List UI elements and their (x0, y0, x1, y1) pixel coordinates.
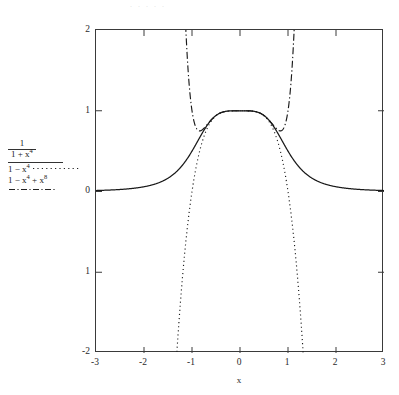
x-tick-label-3: 3 (368, 358, 398, 368)
legend-item-1-minus-x4: 1 − x4 (8, 164, 88, 174)
plot-frame (95, 29, 383, 352)
series-1 - x^4 + x^8 (184, 30, 296, 131)
x-tick-label-2: 2 (320, 358, 350, 368)
legend-line-sample-dashdot (9, 186, 55, 193)
y-tick-label-2: 2 (60, 25, 90, 35)
exponent-8: 8 (44, 173, 47, 180)
y-tick-label-1: 1 (60, 106, 90, 116)
x-tick-label-neg2: -2 (128, 358, 158, 368)
y-tick-label-0: 0 (60, 186, 90, 196)
denominator-exponent: 4 (30, 147, 33, 154)
legend-line-sample-solid (8, 162, 63, 163)
x-tick-label-1: 1 (272, 358, 302, 368)
x-tick-label-neg3: -3 (80, 358, 110, 368)
y-tick-label-neg2: -2 (60, 347, 90, 357)
series-1 - x^4 (177, 111, 304, 353)
plot-canvas (96, 30, 384, 353)
x-tick-label-neg1: -1 (176, 358, 206, 368)
exponent-4: 4 (27, 162, 30, 169)
fraction-denominator: 1 + x4 (8, 150, 36, 159)
x-axis-label: x (224, 375, 254, 385)
series-1/(1+x^4) (96, 111, 384, 191)
x-tick-label-0: 0 (224, 358, 254, 368)
legend-line-sample-dotted (33, 165, 79, 172)
expression-1-minus-x4-plus-x8: 1 − x4 + x8 (8, 175, 47, 185)
y-tick-label-neg1: 1 (60, 267, 90, 277)
legend-item-reciprocal: 1 1 + x4 (8, 139, 88, 163)
clipped-title-artifact: . . . . . (130, 0, 260, 9)
fraction-1-over-1-plus-x4: 1 1 + x4 (8, 139, 36, 160)
figure-root: . . . . . 1 1 + x4 1 − x4 1 − x4 + x8 2 … (0, 0, 399, 395)
